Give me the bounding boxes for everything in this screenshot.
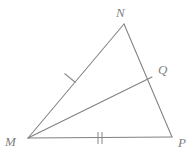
segment-mn [28,24,124,138]
vertex-label-p: P [177,135,186,150]
segment-np [124,24,172,137]
segment-mp [28,137,172,138]
vertex-label-n: N [115,5,126,20]
triangle-diagram-canvas: N Q M P [0,0,194,153]
tick-mark-mn-single [65,74,76,83]
vertex-label-m: M [4,134,17,149]
tick-stroke [65,74,76,83]
segment-mq-cevian [28,77,152,138]
vertex-label-q: Q [158,62,168,77]
geometry-figure: N Q M P [0,0,194,153]
